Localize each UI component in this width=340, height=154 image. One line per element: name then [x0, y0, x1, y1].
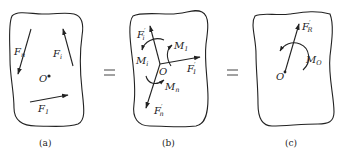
- force-arrow-fi-prime: [150, 26, 160, 64]
- force-arrow-fn-prime: [146, 64, 160, 108]
- force-arrow-fi: [63, 29, 73, 66]
- force-label-fn-prime: F′n: [153, 103, 164, 118]
- rigid-body-outline: [253, 12, 334, 126]
- moment-label-mn: Mn: [164, 81, 179, 94]
- panel-c: F′R MO O (c): [253, 12, 334, 148]
- resultant-moment-arc: [280, 43, 309, 70]
- force-label-f1-prime: F′1: [186, 61, 197, 76]
- equals-sign-1: [104, 70, 115, 75]
- moment-arc-mi: [142, 39, 164, 50]
- moment-label-m1: M1: [173, 40, 188, 53]
- caption-b: (b): [162, 138, 175, 148]
- resultant-force-arrow: [285, 24, 299, 72]
- force-arrow-f1: [30, 95, 68, 102]
- caption-c: (c): [285, 138, 297, 148]
- force-label-fi-prime: F′i: [136, 27, 146, 42]
- equals-sign-2: [227, 70, 238, 75]
- panel-a: Fn Fi O F1 (a): [10, 13, 84, 148]
- point-o-label: O: [276, 71, 284, 82]
- point-o-label: O: [39, 73, 47, 84]
- panel-b: F′i F′1 F′n Mi M1 Mn O (b): [130, 11, 208, 148]
- force-label-f1: F1: [37, 103, 49, 116]
- moment-label-mi: Mi: [135, 55, 148, 68]
- caption-a: (a): [39, 138, 51, 148]
- force-label-fi: Fi: [52, 48, 62, 61]
- force-label-fn: Fn: [13, 46, 25, 59]
- point-o-dot: [47, 74, 50, 77]
- point-o-label: O: [159, 66, 167, 77]
- resultant-force-label: F′R: [301, 19, 312, 34]
- force-system-reduction-diagram: Fn Fi O F1 (a) F′i F′1 F′n Mi M1 Mn: [0, 0, 340, 154]
